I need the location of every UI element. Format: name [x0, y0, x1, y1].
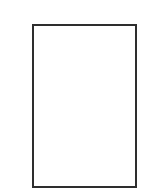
blank-page: [32, 24, 137, 188]
page-content: [34, 26, 135, 186]
